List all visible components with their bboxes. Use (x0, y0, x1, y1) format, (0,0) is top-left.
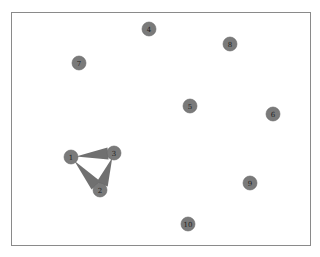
edge-1-3 (76, 148, 109, 160)
edge-3-2 (97, 158, 113, 187)
node-4[interactable]: 4 (142, 22, 156, 36)
svg-text:3: 3 (112, 150, 116, 158)
svg-text:10: 10 (184, 221, 193, 229)
node-7[interactable]: 7 (72, 56, 86, 70)
svg-text:2: 2 (98, 187, 102, 195)
svg-text:9: 9 (248, 180, 252, 188)
node-2[interactable]: 2 (93, 183, 107, 197)
network-graph: 1 2 3 4 5 6 7 8 9 10 (0, 0, 320, 257)
node-9[interactable]: 9 (243, 176, 257, 190)
svg-text:1: 1 (69, 154, 73, 162)
node-8[interactable]: 8 (223, 37, 237, 51)
svg-text:4: 4 (147, 26, 152, 34)
node-1[interactable]: 1 (64, 150, 78, 164)
edges-layer (74, 148, 112, 190)
svg-text:6: 6 (271, 111, 276, 119)
nodes-layer: 1 2 3 4 5 6 7 8 9 10 (64, 22, 280, 231)
node-6[interactable]: 6 (266, 107, 280, 121)
node-3[interactable]: 3 (107, 146, 121, 160)
node-5[interactable]: 5 (183, 99, 197, 113)
svg-text:7: 7 (77, 60, 81, 68)
svg-text:8: 8 (228, 41, 232, 49)
svg-text:5: 5 (188, 103, 192, 111)
node-10[interactable]: 10 (181, 217, 195, 231)
